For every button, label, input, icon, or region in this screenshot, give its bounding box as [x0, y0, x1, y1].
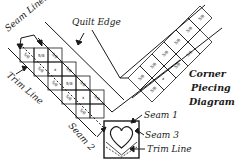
mark: 5/8 [23, 51, 31, 59]
mark: 5/8 [37, 65, 45, 73]
label-trim-line-block: Trim Line [147, 144, 192, 154]
mark: 5/8 [66, 81, 73, 86]
arrow-trim-line [16, 69, 24, 74]
trim-line-left [8, 48, 96, 136]
mark: 5/8 [149, 85, 157, 93]
heart-block-square [104, 121, 139, 158]
mark: 5/8 [197, 13, 205, 21]
left-arm-squares [20, 48, 104, 118]
heart-icon [110, 127, 132, 148]
mark: 5/8 [137, 73, 145, 81]
mark: x [162, 76, 165, 81]
trim-line-right [112, 60, 180, 112]
mark: 5/8 [161, 49, 169, 57]
mark: 5/8 [38, 53, 45, 58]
mark: 5/8 [65, 93, 73, 101]
quilt-edge-line-left [45, 22, 124, 100]
title-line-2: Piecing [190, 82, 231, 93]
arrow-quilt-edge [79, 33, 84, 42]
heart-block [104, 121, 139, 158]
label-trim-line-left: Trim Line [5, 70, 46, 106]
mark: x [82, 95, 85, 100]
seam-line-left-outer [38, 38, 112, 112]
mark: 5/8 [185, 49, 193, 57]
corner-piecing-diagram: 5/8 5/8 5/8 5/8 x 5/8 5/8 5/8 5/8 5/8 x … [0, 0, 238, 163]
mark: 5/8 [173, 37, 181, 45]
mark: 5/8 [173, 61, 181, 69]
title-line-1: Corner [189, 68, 227, 79]
label-seam-lines: Seam Lines [3, 0, 50, 34]
mark: 5/8 [149, 61, 157, 69]
mark: 5/8 [79, 107, 87, 115]
quilt-edge-v [92, 30, 128, 78]
mark: 5/8 [51, 79, 59, 87]
title-line-3: Diagram [188, 96, 235, 107]
label-seam-3: Seam 3 [145, 130, 179, 140]
arrow-seam-lines [21, 35, 34, 38]
mark: 5/8 [185, 25, 193, 33]
diagram-svg: 5/8 5/8 5/8 5/8 x 5/8 5/8 5/8 5/8 5/8 x … [0, 0, 238, 163]
mark: x [54, 67, 57, 72]
label-seam-2: Seam 2 [67, 121, 97, 153]
label-seam-1: Seam 1 [144, 110, 178, 120]
label-quilt-edge: Quilt Edge [72, 17, 121, 27]
